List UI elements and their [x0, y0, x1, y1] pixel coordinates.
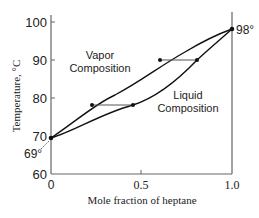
point-bp-high: [230, 27, 235, 32]
vapor-curve: [51, 29, 232, 138]
liquid-label: Liquid: [173, 89, 202, 101]
point-vapor-78: [90, 103, 94, 107]
y-tick-label: 100: [25, 15, 47, 30]
bp-high-label: 98°: [236, 23, 254, 37]
point-liquid-90: [195, 58, 199, 62]
vapor-label: Composition: [69, 62, 130, 74]
y-tick-label: 60: [33, 167, 47, 182]
bp-low-label: 69°: [24, 147, 42, 161]
vapor-label: Vapor: [86, 49, 115, 61]
axes: [51, 12, 232, 174]
point-bp-low: [49, 136, 54, 141]
y-axis-title: Temperature, °C: [10, 60, 22, 133]
y-tick-label: 80: [33, 91, 47, 106]
x-tick-label: 0: [48, 178, 55, 192]
point-vapor-90: [158, 58, 162, 62]
x-axis-title: Mole fraction of heptane: [87, 194, 196, 206]
liquid-curve: [51, 29, 232, 138]
x-tick-label: 1.0: [225, 178, 240, 192]
y-tick-label: 70: [33, 129, 47, 144]
phase-diagram: 100 90 80 70 60 0 0.5 1.0 Mole fraction …: [0, 0, 259, 218]
x-tick-label: 0.5: [134, 178, 149, 192]
point-liquid-78: [131, 103, 135, 107]
y-tick-label: 90: [33, 53, 47, 68]
liquid-label: Composition: [157, 102, 218, 114]
